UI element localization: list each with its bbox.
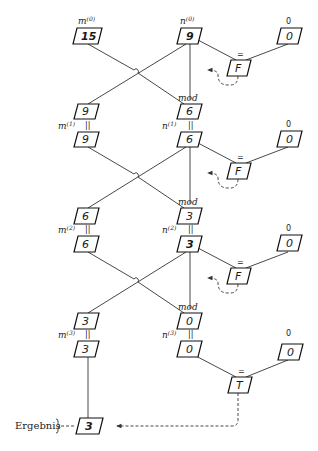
- zero-label-1: 0: [286, 120, 291, 129]
- iteration-1: mod 9 6 m(1) || n(1) || 0 9 6 0: [58, 93, 302, 208]
- mod-label-1: mod: [178, 93, 198, 103]
- svg-text:3: 3: [85, 420, 93, 433]
- mod-box-2: 3: [177, 208, 202, 224]
- edge-n0-to-eq: [198, 40, 236, 60]
- m3-label: m(3): [58, 329, 76, 340]
- svg-text:0: 0: [186, 343, 193, 356]
- iteration-2: mod 6 3 m(2) || n(2) || 0 6 3 0: [58, 197, 302, 313]
- result: Ergebnis 3: [15, 418, 103, 434]
- zero-box-3: 0: [278, 344, 303, 360]
- gcd-dataflow-diagram: m(0) n(0) 0 15 9 0 = F mod: [0, 0, 318, 451]
- svg-text:F: F: [235, 270, 242, 283]
- zero-label-3: 0: [286, 329, 291, 338]
- svg-text:0: 0: [186, 315, 193, 328]
- mod-box-1: 6: [177, 104, 202, 119]
- svg-text:6: 6: [82, 238, 89, 251]
- svg-text:0: 0: [287, 346, 294, 359]
- zero-label-2: 0: [286, 224, 291, 233]
- eq-label-0: =: [237, 50, 244, 59]
- m3-box: 3: [74, 341, 99, 357]
- mod-box-3: 0: [177, 313, 202, 329]
- svg-text:F: F: [235, 62, 242, 75]
- eq-sym-n3: ||: [188, 330, 193, 339]
- svg-text:9: 9: [82, 133, 89, 146]
- prev-n-box-3: 3: [74, 313, 99, 329]
- iteration-0: m(0) n(0) 0 15 9 0 = F: [73, 15, 302, 104]
- m2-label: m(2): [58, 224, 76, 235]
- svg-text:3: 3: [82, 315, 89, 328]
- eq-label-2: =: [237, 258, 244, 267]
- n1-label: n(1): [162, 120, 177, 131]
- eq-sym-m1: ||: [85, 121, 90, 130]
- test-box-2: F: [227, 268, 251, 284]
- dashed-arrow-true: [117, 393, 238, 426]
- n3-box: 0: [177, 341, 202, 357]
- result-box: 3: [76, 418, 103, 434]
- test-box-3: T: [228, 377, 252, 393]
- n1-box: 6: [177, 132, 202, 147]
- test-box-1: F: [227, 163, 251, 179]
- n3-label: n(3): [162, 329, 177, 340]
- n2-label: n(2): [162, 224, 177, 235]
- zero-box-0: 0: [277, 28, 302, 44]
- svg-text:F: F: [235, 165, 242, 178]
- zero-box-1: 0: [277, 131, 302, 147]
- n0-box: 9: [177, 28, 202, 44]
- eq-label-3: =: [238, 367, 245, 376]
- m0-label: m(0): [78, 15, 96, 26]
- svg-text:0: 0: [286, 237, 293, 250]
- svg-text:0: 0: [286, 133, 293, 146]
- prev-n-box-2: 6: [74, 208, 99, 224]
- eq-sym-n1: ||: [188, 121, 193, 130]
- svg-text:9: 9: [82, 105, 89, 118]
- svg-text:9: 9: [186, 30, 194, 43]
- zero-label: 0: [286, 17, 291, 26]
- m1-label: m(1): [58, 120, 76, 131]
- svg-text:3: 3: [186, 210, 193, 223]
- svg-text:0: 0: [286, 30, 293, 43]
- zero-box-2: 0: [277, 235, 302, 251]
- prev-n-box-1: 9: [74, 104, 99, 119]
- eq-label-1: =: [237, 153, 244, 162]
- svg-text:3: 3: [82, 343, 89, 356]
- mod-label-3: mod: [178, 302, 198, 312]
- n2-box: 3: [177, 236, 202, 252]
- svg-text:15: 15: [81, 30, 97, 43]
- test-box-0: F: [227, 60, 251, 76]
- iteration-3: mod 3 0 m(3) || n(3) || 0 3 0 0 =: [58, 302, 303, 426]
- edge-zero-to-eq: [246, 44, 288, 60]
- result-label: Ergebnis: [15, 420, 61, 431]
- eq-sym-m3: ||: [85, 330, 90, 339]
- svg-text:6: 6: [82, 210, 89, 223]
- svg-text:3: 3: [186, 238, 194, 251]
- eq-sym-n2: ||: [188, 225, 193, 234]
- m1-box: 9: [74, 132, 99, 147]
- mod-label-2: mod: [178, 197, 198, 207]
- m0-box: 15: [73, 28, 102, 44]
- eq-sym-m2: ||: [85, 225, 90, 234]
- n0-label: n(0): [180, 15, 195, 26]
- m2-box: 6: [74, 236, 99, 252]
- svg-text:6: 6: [186, 133, 193, 146]
- svg-text:6: 6: [186, 105, 193, 118]
